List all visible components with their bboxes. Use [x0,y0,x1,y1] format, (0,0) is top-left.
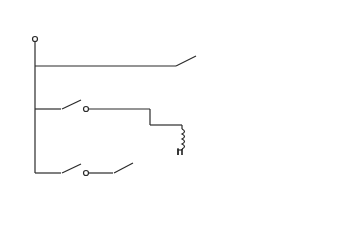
relay-coil [182,129,185,149]
s2-blade [62,164,81,173]
power-source-terminal [33,37,38,42]
circuit-schematic [0,0,352,235]
a2-blade [114,163,133,173]
s1-blade [62,100,81,109]
a1-blade [176,56,196,66]
